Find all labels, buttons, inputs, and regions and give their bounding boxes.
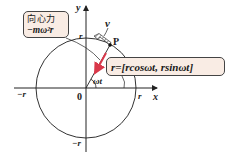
point-p	[108, 43, 112, 47]
velocity-leader	[104, 28, 108, 36]
force-leader	[66, 38, 100, 60]
x-axis-label: x	[153, 92, 158, 102]
origin-label: 0	[77, 92, 82, 102]
velocity-label: v	[105, 18, 110, 29]
x-pos-tick-label: r	[138, 92, 142, 101]
y-neg-tick-label: −r	[72, 139, 81, 148]
point-p-label: P	[113, 37, 119, 47]
x-neg-tick-label: −r	[17, 90, 26, 99]
y-axis-label: y	[76, 3, 80, 13]
centripetal-force-box: 向心力 −mω²r	[23, 11, 69, 38]
position-vector-formula: r=[rcosωt, rsinωt]	[111, 61, 193, 73]
y-pos-tick-label: r	[79, 32, 83, 41]
angle-label: ωt	[93, 77, 102, 86]
centripetal-force-formula: −mω²r	[27, 25, 65, 36]
centripetal-force-title: 向心力	[27, 14, 65, 25]
position-leader	[122, 76, 125, 88]
position-vector-box: r=[rcosωt, rsinωt]	[106, 57, 225, 76]
